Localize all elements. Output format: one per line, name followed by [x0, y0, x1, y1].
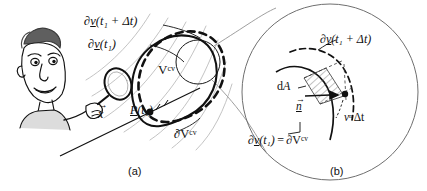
area-element-leader [298, 86, 306, 88]
time-argument: (t₁ + Δt) [331, 32, 371, 46]
label-volume-cv: Vcv [158, 63, 175, 76]
cv-superscript: cv [301, 134, 308, 143]
swept-height-endpoint [342, 91, 348, 97]
swept-volume-element [304, 68, 344, 104]
panel-caption-a: (a) [128, 166, 141, 177]
label-area-element: dA [277, 80, 290, 92]
label-particle-P: P(t₁) [130, 104, 153, 116]
time-argument: (t₁) [100, 37, 116, 51]
x-vector-symbol: x [98, 108, 103, 120]
surface-symbol: ∂V [286, 133, 301, 147]
label-surface-cv: ∂Vcv [174, 128, 197, 141]
figure-container: ∂v(t₁ + Δt) ∂v(t₁) Vcv ∂Vcv x P(t₁) (a) … [0, 0, 427, 191]
surface-symbol: ∂V [174, 127, 189, 141]
time-argument: (t₁) [137, 103, 153, 117]
delta-t: Δt [354, 111, 365, 123]
equals-sign: = [277, 133, 284, 147]
cv-superscript: cv [189, 128, 196, 137]
swept-height-leader [336, 100, 343, 118]
label-boundary-equality: ∂v(t₁) = ∂Vcv [248, 134, 308, 146]
label-normal-vector: n [296, 101, 302, 113]
area-symbol: A [283, 79, 290, 93]
label-position-vector: x [98, 108, 103, 120]
label-boundary-now-a: ∂v(t₁) [88, 38, 116, 51]
cv-superscript: cv [167, 64, 175, 73]
volume-symbol: V [158, 62, 167, 77]
label-boundary-future-a: ∂v(t₁ + Δt) [84, 15, 137, 28]
label-swept-height: vn Δt [344, 112, 364, 124]
time-argument: (t₁ + Δt) [96, 14, 138, 28]
n-vector-symbol: n [296, 101, 302, 113]
time-argument: (t₁) [259, 133, 275, 147]
normal-superscript: n [349, 112, 353, 120]
label-boundary-future-b: ∂v(t₁ + Δt) [320, 33, 371, 45]
panel-caption-b: (b) [330, 166, 343, 177]
panel-b-geometry [0, 0, 427, 191]
